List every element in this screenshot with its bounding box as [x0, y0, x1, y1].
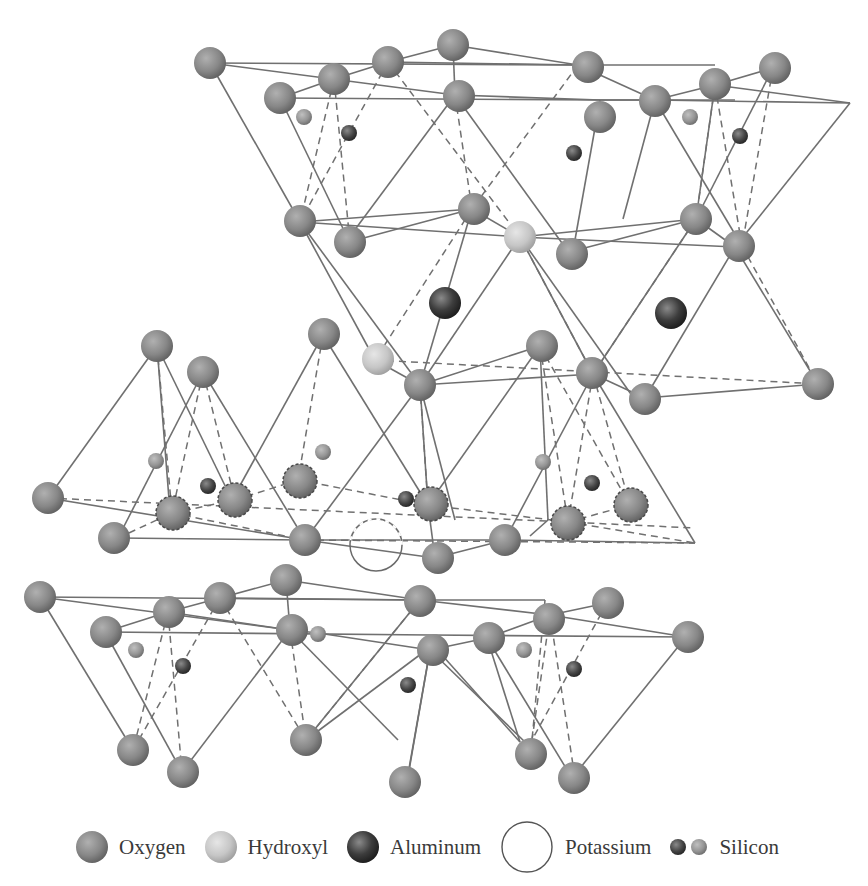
legend-label: Aluminum [390, 835, 481, 860]
legend-item-aluminum: Aluminum [346, 830, 481, 864]
potassium-icon [499, 820, 555, 874]
silicon-icon [669, 837, 709, 857]
legend-item-potassium: Potassium [499, 820, 651, 874]
hydroxyl-icon [204, 830, 238, 864]
mica-structure-diagram [0, 0, 868, 886]
potassium-atom [350, 519, 402, 571]
bonds-solid [40, 45, 850, 782]
bonds-dashed [48, 62, 818, 778]
legend-label: Potassium [565, 835, 651, 860]
legend-label: Silicon [719, 835, 779, 860]
legend-item-silicon: Silicon [669, 835, 779, 860]
oxygen-atoms [24, 29, 834, 798]
legend-label: Oxygen [119, 835, 186, 860]
legend-item-oxygen: Oxygen [75, 830, 186, 864]
aluminum-icon [346, 830, 380, 864]
legend-item-hydroxyl: Hydroxyl [204, 830, 329, 864]
legend-label: Hydroxyl [248, 835, 329, 860]
oxygen-icon [75, 830, 109, 864]
legend: Oxygen Hydroxyl Aluminum Potassium Silic… [75, 822, 797, 872]
